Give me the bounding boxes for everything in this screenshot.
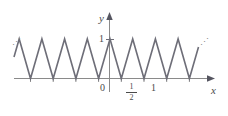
origin-label: 0 bbox=[100, 83, 105, 93]
fraction-numerator: 1 bbox=[126, 83, 137, 91]
y-tick-label-1: 1 bbox=[99, 34, 104, 44]
plot-canvas bbox=[0, 0, 228, 116]
y-axis-arrow-icon bbox=[106, 12, 112, 20]
right-continuation-dots: ⋰ bbox=[200, 38, 209, 47]
fraction-denominator: 2 bbox=[126, 94, 137, 102]
x-axis-arrow-icon bbox=[207, 75, 215, 81]
triangular-wave-curve bbox=[14, 39, 199, 79]
left-continuation-dots: ⋰ bbox=[12, 38, 21, 47]
x-tick-label-one: 1 bbox=[151, 83, 156, 93]
x-tick-label-one-half: 1 2 bbox=[126, 83, 137, 102]
x-axis-label: x bbox=[211, 85, 216, 96]
y-axis-label: y bbox=[99, 13, 104, 24]
triangular-wave-figure: y x 1 0 1 2 1 ⋰ ⋰ bbox=[0, 0, 228, 116]
